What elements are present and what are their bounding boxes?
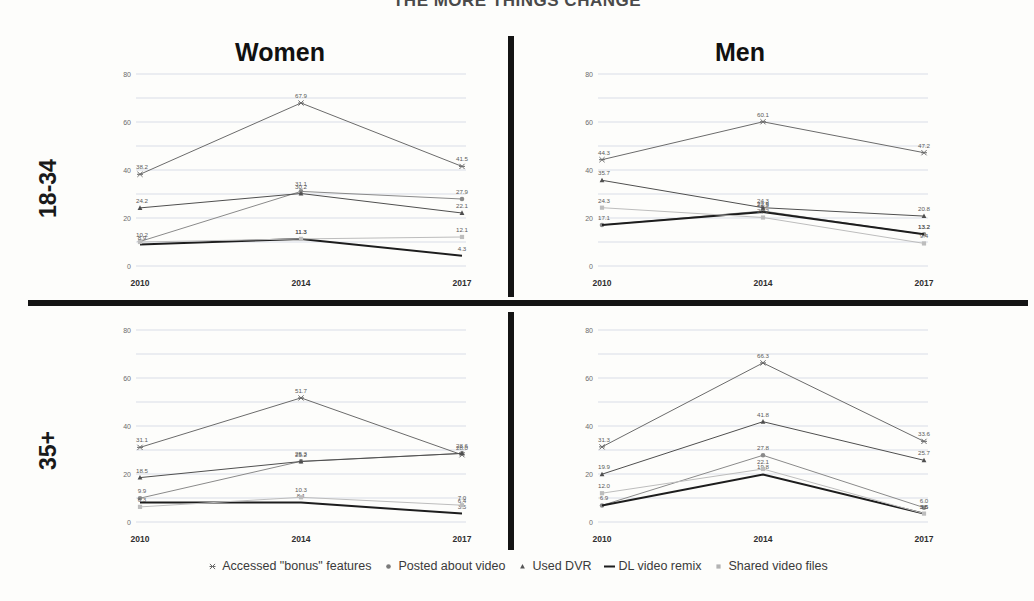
data-label: 8.9 bbox=[138, 234, 147, 241]
series-line bbox=[602, 469, 924, 514]
star-x-marker bbox=[298, 100, 304, 105]
chart-svg-women-35-plus: 02040608020102014201731.151.728.09.925.3… bbox=[110, 318, 478, 554]
square-marker bbox=[600, 206, 604, 210]
star-x-marker bbox=[298, 395, 304, 400]
x-tick-label: 2014 bbox=[754, 534, 773, 544]
star-x-marker bbox=[599, 444, 605, 449]
y-tick-label: 80 bbox=[123, 71, 131, 78]
square-marker bbox=[712, 561, 725, 572]
chart-page: THE MORE THINGS CHANGE 18-34 35+ Women M… bbox=[0, 0, 1034, 601]
star-x-marker bbox=[599, 157, 605, 162]
square-marker bbox=[761, 467, 765, 471]
square-marker bbox=[299, 495, 303, 499]
star-x-marker bbox=[760, 360, 766, 365]
series-line bbox=[602, 122, 924, 160]
series-line bbox=[602, 212, 924, 234]
triangle-marker bbox=[521, 564, 526, 569]
series-1: 31.151.728.0 bbox=[136, 387, 469, 457]
data-label: 27.8 bbox=[757, 444, 770, 451]
circle-marker bbox=[387, 564, 392, 569]
legend-label: Shared video files bbox=[728, 560, 827, 573]
data-label: 33.6 bbox=[918, 430, 931, 437]
data-label: 12.1 bbox=[456, 226, 469, 233]
legend-item-5[interactable]: Shared video files bbox=[712, 560, 827, 573]
data-label: 28.6 bbox=[456, 442, 469, 449]
data-label: 6.9 bbox=[600, 494, 609, 501]
chart-panel-men-18-34: 02040608020102014201744.360.147.217.122.… bbox=[572, 62, 940, 298]
data-label: 20.2 bbox=[757, 207, 770, 214]
data-label: 66.3 bbox=[757, 352, 770, 359]
chart-panel-women-18-34: 02040608020102014201738.267.941.510.231.… bbox=[110, 62, 478, 298]
triangle-marker bbox=[761, 419, 766, 424]
data-label: 67.9 bbox=[295, 92, 308, 99]
data-label: 31.3 bbox=[598, 436, 611, 443]
y-tick-label: 20 bbox=[585, 215, 593, 222]
x-tick-label: 2014 bbox=[292, 534, 311, 544]
y-tick-label: 0 bbox=[589, 519, 593, 526]
data-label: 47.2 bbox=[918, 142, 931, 149]
horizontal-divider bbox=[28, 300, 1028, 306]
y-tick-label: 60 bbox=[123, 119, 131, 126]
chart-legend: Accessed "bonus" featuresPosted about vi… bbox=[0, 560, 1034, 573]
x-axis-ticks: 201020142017 bbox=[131, 278, 472, 288]
data-label: 24.2 bbox=[136, 197, 149, 204]
square-marker bbox=[761, 215, 765, 219]
x-tick-label: 2014 bbox=[292, 278, 311, 288]
triangle-marker bbox=[600, 178, 605, 183]
star-x-marker bbox=[921, 150, 927, 155]
data-label: 27.9 bbox=[456, 188, 469, 195]
star-x-marker bbox=[210, 564, 216, 569]
series-3: 18.525.2 bbox=[136, 451, 464, 480]
data-label: 22.1 bbox=[757, 458, 770, 465]
data-label: 30.2 bbox=[295, 183, 308, 190]
star-x-marker bbox=[760, 119, 766, 124]
x-tick-label: 2010 bbox=[131, 278, 150, 288]
chart-panel-women-35-plus: 02040608020102014201731.151.728.09.925.3… bbox=[110, 318, 478, 554]
y-tick-label: 40 bbox=[123, 423, 131, 430]
chart-svg-women-18-34: 02040608020102014201738.267.941.510.231.… bbox=[110, 62, 478, 298]
star-x-marker bbox=[137, 172, 143, 177]
data-label: 9.4 bbox=[920, 232, 929, 239]
data-label: 25.7 bbox=[918, 449, 931, 456]
legend-item-4[interactable]: DL video remix bbox=[603, 560, 702, 573]
x-tick-label: 2010 bbox=[131, 534, 150, 544]
legend-item-3[interactable]: Used DVR bbox=[516, 560, 591, 573]
legend-item-2[interactable]: Posted about video bbox=[382, 560, 505, 573]
y-tick-label: 0 bbox=[127, 263, 131, 270]
data-label: 31.1 bbox=[136, 436, 149, 443]
series-3: 24.230.222.1 bbox=[136, 183, 469, 215]
legend-item-1[interactable]: Accessed "bonus" features bbox=[206, 560, 371, 573]
data-label: 3.5 bbox=[920, 503, 929, 510]
vertical-divider-top bbox=[508, 36, 514, 297]
x-axis-ticks: 201020142017 bbox=[593, 278, 934, 288]
page-title: THE MORE THINGS CHANGE bbox=[0, 0, 1034, 11]
y-tick-label: 80 bbox=[585, 71, 593, 78]
chart-panel-men-35-plus: 02040608020102014201731.366.333.66.927.8… bbox=[572, 318, 940, 554]
star-x-marker bbox=[137, 445, 143, 450]
square-marker bbox=[460, 503, 464, 507]
y-tick-label: 80 bbox=[123, 327, 131, 334]
line-marker bbox=[603, 561, 616, 572]
vertical-divider-bottom bbox=[508, 312, 514, 550]
data-label: 10.3 bbox=[295, 486, 308, 493]
y-axis-ticks: 020406080 bbox=[585, 327, 593, 526]
row-label-35-plus: 35+ bbox=[35, 411, 62, 491]
square-marker bbox=[299, 237, 303, 241]
y-tick-label: 60 bbox=[585, 375, 593, 382]
triangle-marker bbox=[516, 561, 529, 572]
x-axis-ticks: 201020142017 bbox=[131, 534, 472, 544]
data-label: 38.2 bbox=[136, 163, 149, 170]
y-tick-label: 40 bbox=[585, 423, 593, 430]
circle-marker bbox=[460, 197, 465, 202]
y-tick-label: 0 bbox=[127, 519, 131, 526]
square-marker bbox=[138, 505, 142, 509]
series-1: 31.366.333.6 bbox=[598, 352, 931, 450]
data-label: 60.1 bbox=[757, 111, 770, 118]
data-label: 17.1 bbox=[598, 214, 611, 221]
y-axis-ticks: 020406080 bbox=[123, 327, 131, 526]
square-marker bbox=[138, 240, 142, 244]
data-label: 51.7 bbox=[295, 387, 308, 394]
x-tick-label: 2017 bbox=[915, 534, 934, 544]
series-1: 38.267.941.5 bbox=[136, 92, 469, 177]
data-label: 11.3 bbox=[295, 228, 307, 235]
